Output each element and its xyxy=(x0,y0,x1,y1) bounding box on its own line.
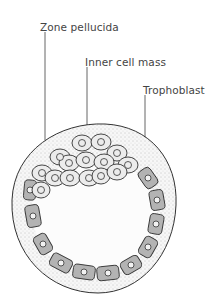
label-zona-pellucida: Zone pellucida xyxy=(40,21,119,33)
label-inner-cell-mass: Inner cell mass xyxy=(85,56,166,68)
label-trophoblast: Trophoblast xyxy=(143,84,205,96)
blastocyst-diagram xyxy=(0,0,219,308)
